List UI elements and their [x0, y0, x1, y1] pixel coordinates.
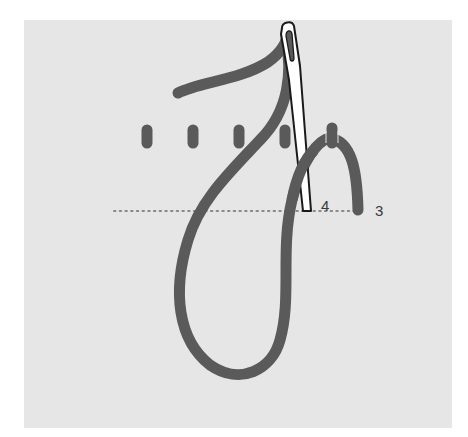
fabric-panel	[24, 20, 452, 428]
stitch-diagram	[0, 0, 468, 437]
point-4-label: 4	[321, 198, 329, 213]
point-3-label: 3	[375, 203, 383, 218]
